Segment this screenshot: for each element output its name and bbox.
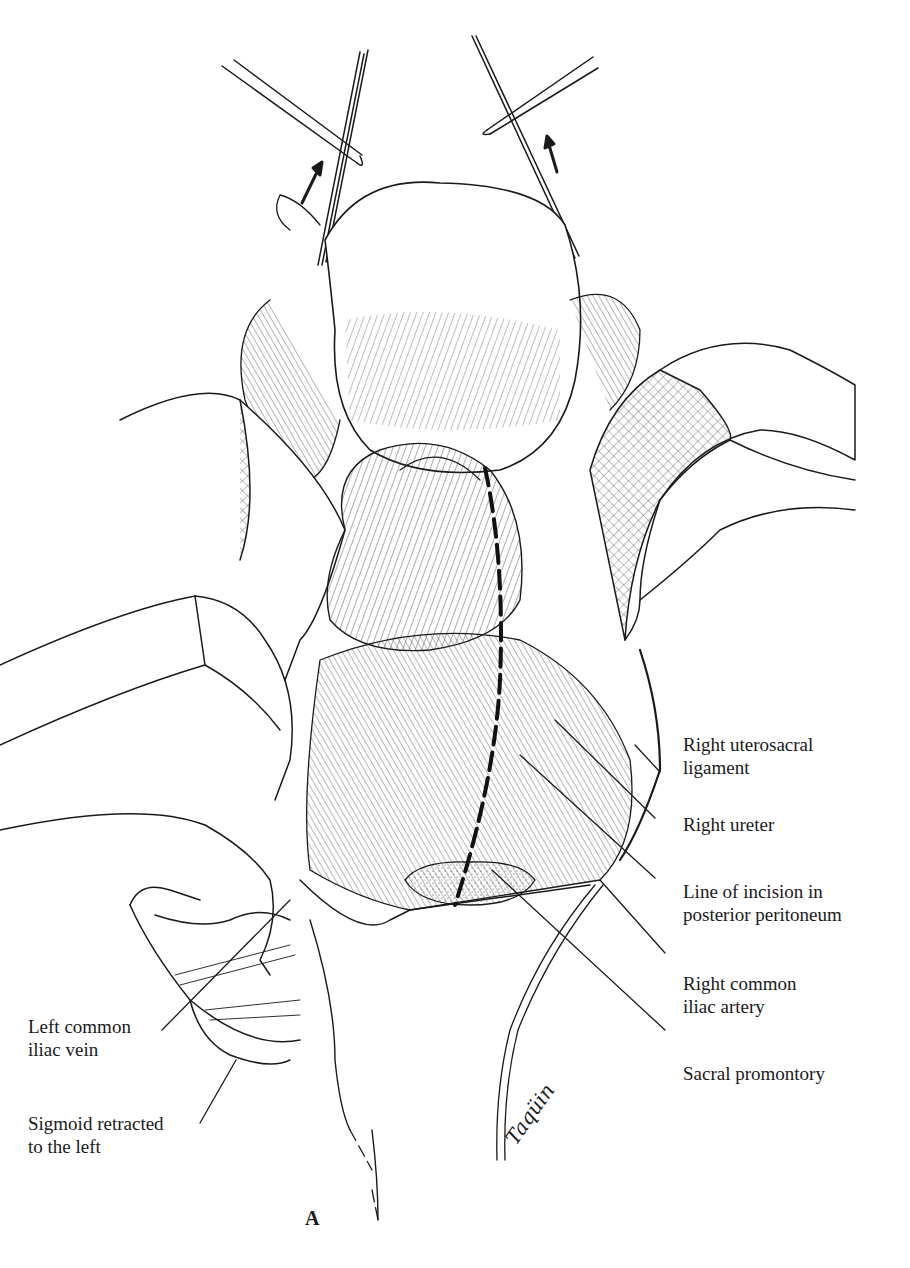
label-right-ureter: Right ureter bbox=[683, 813, 774, 836]
label-left-common-iliac-vein: Left common iliac vein bbox=[28, 1015, 131, 1061]
traction-arrow-left-icon bbox=[302, 162, 322, 203]
label-right-uterosacral-ligament: Right uterosacral ligament bbox=[683, 733, 813, 779]
right-adnexa bbox=[570, 294, 640, 410]
label-sigmoid-retracted: Sigmoid retracted to the left bbox=[28, 1112, 164, 1158]
sigmoid-colon bbox=[327, 443, 522, 650]
label-sacral-promontory: Sacral promontory bbox=[683, 1062, 825, 1085]
traction-arrow-right-icon bbox=[545, 136, 557, 172]
left-retractor bbox=[0, 393, 345, 975]
label-right-common-iliac-artery: Right common iliac artery bbox=[683, 972, 796, 1018]
label-line-of-incision: Line of incision in posterior peritoneum bbox=[683, 880, 842, 926]
panel-label: A bbox=[305, 1207, 319, 1230]
rectum-tube bbox=[310, 920, 378, 1220]
